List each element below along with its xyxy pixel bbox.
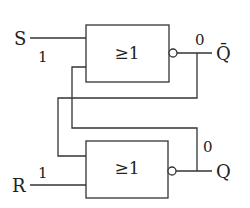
- r-input-value: 1: [38, 164, 48, 182]
- q-output-label: Q: [216, 161, 231, 182]
- qbar-output-label: Q̄: [216, 42, 231, 64]
- qbar-output-value: 0: [195, 31, 205, 49]
- top-inversion-bubble: [169, 49, 177, 57]
- r-input-label: R: [12, 175, 26, 196]
- bottom-gate-label: ≥1: [114, 158, 139, 178]
- s-input-label: S: [14, 28, 26, 49]
- q-output-value: 0: [203, 138, 213, 156]
- s-input-value: 1: [38, 48, 48, 66]
- top-gate-label: ≥1: [114, 43, 139, 63]
- bottom-inversion-bubble: [168, 167, 176, 175]
- sr-latch-diagram: ≥1 ≥1 S 1 R 1 0 Q̄ 0 Q: [0, 0, 250, 208]
